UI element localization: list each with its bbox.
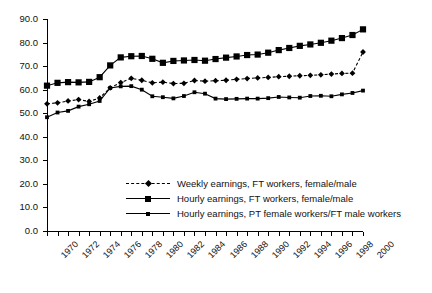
data-point-square bbox=[287, 96, 291, 100]
data-point-square bbox=[161, 95, 165, 99]
data-point-diamond bbox=[339, 71, 345, 77]
data-point-square bbox=[224, 97, 228, 101]
data-point-diamond bbox=[297, 73, 303, 79]
data-point-square bbox=[214, 97, 218, 101]
data-point-square bbox=[150, 94, 154, 98]
data-point-square bbox=[351, 91, 355, 95]
data-point-diamond bbox=[171, 81, 177, 87]
data-point-square bbox=[44, 83, 50, 89]
data-point-diamond bbox=[128, 75, 134, 81]
legend-item-hourly-pt: Hourly earnings, PT female workers/FT ma… bbox=[126, 206, 401, 221]
square-marker-icon bbox=[145, 196, 151, 202]
data-point-square bbox=[66, 109, 70, 113]
data-point-diamond bbox=[76, 97, 82, 103]
data-point-square bbox=[87, 102, 91, 106]
legend-item-hourly-ft: Hourly earnings, FT workers, female/male bbox=[126, 191, 401, 206]
data-point-square bbox=[170, 58, 176, 64]
legend-label-hourly-pt: Hourly earnings, PT female workers/FT ma… bbox=[177, 208, 401, 219]
chart-figure: 0.010.020.030.040.050.060.070.080.090.0 … bbox=[0, 0, 432, 293]
data-point-square bbox=[307, 41, 313, 47]
data-point-square bbox=[76, 79, 82, 85]
data-point-square bbox=[56, 111, 60, 115]
data-point-square bbox=[108, 86, 112, 90]
data-point-square bbox=[286, 45, 292, 51]
data-point-square bbox=[45, 115, 49, 119]
legend-label-hourly-ft: Hourly earnings, FT workers, female/male bbox=[177, 193, 353, 204]
data-point-square bbox=[119, 84, 123, 88]
data-point-square bbox=[235, 97, 239, 101]
data-point-diamond bbox=[286, 73, 292, 79]
data-point-square bbox=[328, 38, 334, 44]
data-point-diamond bbox=[65, 98, 71, 104]
data-point-square bbox=[245, 97, 249, 101]
data-point-square bbox=[234, 53, 240, 59]
data-point-square bbox=[86, 79, 92, 85]
data-point-square bbox=[340, 92, 344, 96]
data-point-square bbox=[107, 62, 113, 68]
data-point-square bbox=[256, 97, 260, 101]
data-point-diamond bbox=[329, 71, 335, 77]
data-point-square bbox=[172, 96, 176, 100]
data-point-square bbox=[182, 94, 186, 98]
data-point-square bbox=[265, 50, 271, 56]
data-point-square bbox=[193, 90, 197, 94]
legend-swatch-hourly-ft bbox=[126, 193, 170, 204]
data-point-square bbox=[160, 60, 166, 66]
series-line bbox=[47, 29, 363, 85]
data-point-square bbox=[308, 94, 312, 98]
data-point-square bbox=[223, 55, 229, 61]
data-point-square bbox=[255, 51, 261, 57]
legend-swatch-weekly-ft bbox=[126, 178, 170, 189]
data-point-square bbox=[181, 57, 187, 63]
data-point-square bbox=[339, 35, 345, 41]
data-point-square bbox=[298, 96, 302, 100]
series-line bbox=[47, 86, 363, 117]
data-point-diamond bbox=[202, 78, 208, 84]
data-point-square bbox=[203, 92, 207, 96]
data-point-diamond bbox=[55, 100, 61, 106]
data-point-diamond bbox=[44, 101, 50, 107]
data-point-square bbox=[330, 94, 334, 98]
data-point-square bbox=[140, 88, 144, 92]
data-point-diamond bbox=[181, 80, 187, 86]
data-point-square bbox=[118, 54, 124, 60]
data-point-square bbox=[97, 74, 103, 80]
data-point-diamond bbox=[192, 78, 198, 84]
data-point-square bbox=[54, 80, 60, 86]
data-point-diamond bbox=[360, 49, 366, 55]
data-point-diamond bbox=[307, 72, 313, 78]
data-point-square bbox=[297, 43, 303, 49]
data-point-diamond bbox=[234, 76, 240, 82]
data-point-square bbox=[349, 32, 355, 38]
data-point-square bbox=[360, 26, 366, 32]
data-point-square bbox=[98, 99, 102, 103]
data-point-diamond bbox=[318, 72, 324, 78]
data-point-square bbox=[128, 53, 134, 59]
data-point-square bbox=[318, 40, 324, 46]
data-point-square bbox=[191, 57, 197, 63]
data-point-square bbox=[266, 96, 270, 100]
data-point-square bbox=[244, 52, 250, 58]
legend-label-weekly-ft: Weekly earnings, FT workers, female/male bbox=[177, 178, 357, 189]
data-point-square bbox=[277, 95, 281, 99]
data-point-square bbox=[139, 53, 145, 59]
data-point-diamond bbox=[213, 78, 219, 84]
data-point-diamond bbox=[223, 77, 229, 83]
series-2 bbox=[45, 84, 365, 119]
legend-item-weekly-ft: Weekly earnings, FT workers, female/male bbox=[126, 176, 401, 191]
data-point-square bbox=[361, 89, 365, 93]
plot-area bbox=[0, 0, 432, 293]
data-point-diamond bbox=[149, 80, 155, 86]
chart-legend: Weekly earnings, FT workers, female/male… bbox=[126, 176, 401, 221]
data-point-diamond bbox=[350, 70, 356, 76]
small-square-marker-icon bbox=[146, 212, 150, 216]
diamond-marker-icon bbox=[144, 180, 151, 187]
data-point-square bbox=[212, 56, 218, 62]
data-point-diamond bbox=[276, 74, 282, 80]
data-point-square bbox=[65, 79, 71, 85]
data-point-diamond bbox=[139, 77, 145, 83]
legend-swatch-hourly-pt bbox=[126, 208, 170, 219]
data-point-square bbox=[77, 105, 81, 109]
data-point-square bbox=[129, 84, 133, 88]
data-point-square bbox=[202, 58, 208, 64]
